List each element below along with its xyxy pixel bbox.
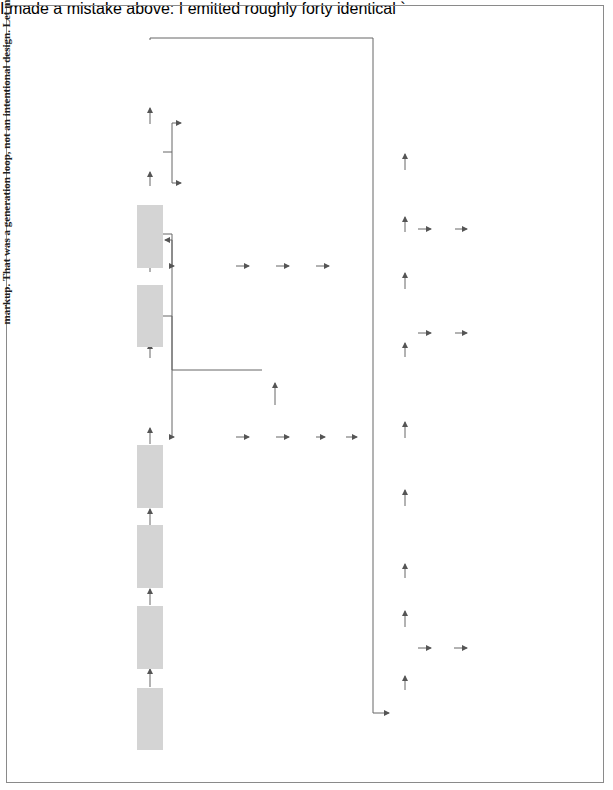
step-complaint-or-petition <box>137 688 163 750</box>
step-answer-to-counterclaim <box>137 445 163 508</box>
connector-lines <box>0 0 613 790</box>
step-answer-and-counterclaim <box>137 525 163 588</box>
step-motions <box>137 285 163 347</box>
step-discovery <box>137 205 163 268</box>
step-summons <box>137 606 163 669</box>
